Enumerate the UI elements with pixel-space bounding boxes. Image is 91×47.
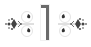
level-number-badge: 1 [0,0,91,47]
left-flourish-icon [2,8,36,40]
right-flourish-icon [56,8,90,40]
level-number: 1 [36,0,55,47]
numeral-one-glyph [36,0,55,47]
